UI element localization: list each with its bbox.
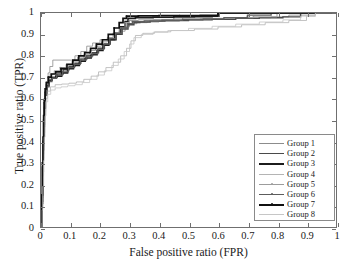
y-tick-mark: [332, 13, 336, 14]
x-tick-mark: [308, 223, 309, 227]
y-tick-mark: [332, 56, 336, 57]
x-tick-mark: [190, 13, 191, 17]
legend-line-sample-icon: [258, 209, 285, 219]
x-tick-mark: [249, 223, 250, 227]
roc-curve-marker: [126, 15, 128, 17]
roc-curve-marker: [253, 16, 255, 18]
legend-line-sample-icon: [258, 138, 285, 148]
y-tick-label: 0.2: [0, 179, 34, 190]
x-tick-mark: [338, 223, 339, 227]
legend-line-sample-icon: [258, 199, 285, 209]
x-tick-label: 1: [317, 230, 347, 241]
x-tick-mark: [160, 223, 161, 227]
legend-item-label: Group 4: [285, 169, 315, 179]
x-tick-mark: [279, 13, 280, 17]
y-tick-label: 0: [0, 222, 34, 233]
x-tick-mark: [130, 13, 131, 17]
roc-curve-marker: [129, 20, 131, 22]
roc-curve-marker: [60, 68, 62, 70]
legend-line-sample-icon: [258, 169, 285, 179]
roc-chart-figure: False positive ratio (FPR) True positive…: [0, 0, 347, 275]
legend-item-label: Group 2: [285, 148, 315, 158]
x-tick-mark: [279, 223, 280, 227]
legend-item[interactable]: Group 5: [258, 179, 332, 189]
x-tick-mark: [100, 223, 101, 227]
x-tick-mark: [100, 13, 101, 17]
y-tick-mark: [41, 207, 45, 208]
y-tick-mark: [41, 164, 45, 165]
x-tick-mark: [219, 13, 220, 17]
y-tick-label: 0.1: [0, 200, 34, 211]
y-tick-mark: [41, 99, 45, 100]
x-axis-title: False positive ratio (FPR): [40, 246, 337, 258]
legend-line-sample-icon: [258, 158, 285, 168]
legend-item-label: Group 6: [285, 189, 315, 199]
y-tick-mark: [332, 78, 336, 79]
y-tick-label: 1: [0, 6, 34, 17]
y-tick-mark: [41, 186, 45, 187]
roc-curve-marker: [47, 76, 49, 78]
y-tick-label: 0.9: [0, 28, 34, 39]
roc-curve-marker: [113, 27, 115, 29]
roc-curve-marker: [78, 55, 80, 57]
x-tick-mark: [219, 223, 220, 227]
legend-line-sample-icon: [258, 189, 285, 199]
y-tick-label: 0.8: [0, 49, 34, 60]
chart-legend: Group 1Group 2Group 3Group 4Group 5Group…: [254, 134, 335, 221]
roc-curve-marker: [173, 18, 175, 20]
y-tick-label: 0.5: [0, 114, 34, 125]
legend-item-label: Group 3: [285, 158, 315, 168]
legend-line-sample-icon: [258, 179, 285, 189]
y-tick-mark: [41, 78, 45, 79]
legend-item[interactable]: Group 6: [258, 189, 332, 199]
legend-item[interactable]: Group 3: [258, 158, 332, 168]
y-tick-mark: [332, 121, 336, 122]
roc-curve-marker: [96, 43, 98, 45]
roc-curve-marker: [179, 15, 181, 17]
x-tick-mark: [130, 223, 131, 227]
legend-item-label: Group 1: [285, 138, 315, 148]
x-tick-mark: [338, 13, 339, 17]
legend-item[interactable]: Group 1: [258, 138, 332, 148]
legend-item[interactable]: Group 7: [258, 199, 332, 209]
x-tick-mark: [71, 13, 72, 17]
y-tick-mark: [332, 35, 336, 36]
legend-item-label: Group 8: [285, 209, 315, 219]
x-tick-mark: [71, 223, 72, 227]
y-tick-mark: [332, 99, 336, 100]
legend-line-sample-icon: [258, 148, 285, 158]
y-tick-mark: [41, 13, 45, 14]
y-tick-label: 0.6: [0, 92, 34, 103]
legend-item[interactable]: Group 2: [258, 148, 332, 158]
x-tick-mark: [308, 13, 309, 17]
y-tick-label: 0.7: [0, 71, 34, 82]
x-tick-mark: [190, 223, 191, 227]
roc-curve-marker: [182, 19, 184, 21]
legend-item-label: Group 7: [285, 199, 315, 209]
roc-curve-marker: [132, 21, 134, 23]
y-tick-mark: [41, 143, 45, 144]
x-tick-mark: [41, 223, 42, 227]
legend-item[interactable]: Group 8: [258, 209, 332, 219]
y-tick-mark: [41, 121, 45, 122]
y-tick-label: 0.3: [0, 157, 34, 168]
y-tick-mark: [41, 56, 45, 57]
legend-item-label: Group 5: [285, 179, 315, 189]
x-tick-mark: [249, 13, 250, 17]
legend-item[interactable]: Group 4: [258, 169, 332, 179]
y-tick-label: 0.4: [0, 136, 34, 147]
y-tick-mark: [41, 35, 45, 36]
x-tick-mark: [160, 13, 161, 17]
